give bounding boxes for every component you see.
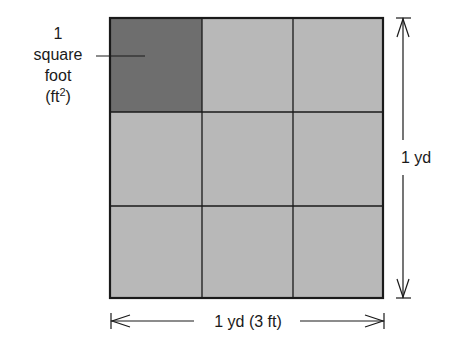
grid-cell-highlighted	[110, 18, 202, 112]
grid-cell	[293, 18, 383, 112]
grid-cell	[110, 112, 202, 206]
callout-line-4: (ft2)	[45, 86, 71, 105]
grid-cell	[293, 206, 383, 298]
callout-line-2: square	[34, 46, 83, 63]
grid-cell	[202, 18, 293, 112]
callout-line-1: 1	[54, 25, 63, 42]
grid-cell	[293, 112, 383, 206]
grid-cell	[110, 206, 202, 298]
square-yard-diagram: 1 square foot (ft2) 1 yd 1 yd (3 ft)	[0, 0, 454, 352]
height-label: 1 yd	[401, 149, 431, 166]
grid	[110, 18, 383, 298]
callout-line-3: foot	[45, 67, 72, 84]
grid-cell	[202, 112, 293, 206]
grid-cell	[202, 206, 293, 298]
width-label: 1 yd (3 ft)	[214, 313, 282, 330]
